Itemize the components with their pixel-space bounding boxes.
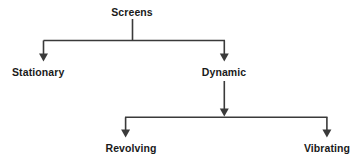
node-label-revolving: Revolving — [105, 142, 156, 154]
node-label-stationary: Stationary — [12, 66, 64, 78]
diagram-canvas: Screens Stationary Dynamic Revolving Vib… — [0, 0, 362, 165]
edge-dynamic-to-level2 — [125, 81, 328, 133]
node-label-vibrating: Vibrating — [304, 142, 350, 154]
node-label-screens: Screens — [111, 6, 153, 18]
edge-screens-to-level1 — [44, 19, 226, 57]
tree-connectors — [0, 0, 362, 165]
node-label-dynamic: Dynamic — [202, 66, 246, 78]
